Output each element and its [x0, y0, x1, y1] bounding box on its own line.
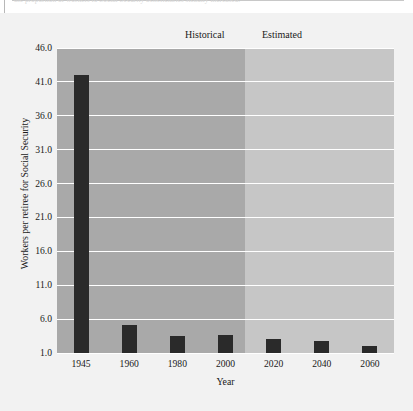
gridline: [57, 48, 394, 49]
gridline: [57, 217, 394, 218]
bar: [74, 75, 89, 353]
gridline: [57, 183, 394, 184]
gridline: [57, 81, 394, 82]
bar: [266, 339, 281, 353]
estimated-region-background: [245, 48, 394, 353]
y-axis-tick-label: 6.0: [4, 314, 52, 324]
x-axis-tick-label: 1960: [107, 358, 151, 369]
x-axis-tick-label: 1945: [59, 358, 103, 369]
y-axis-tick-label: 1.0: [4, 348, 52, 358]
y-axis-tick-label: 46.0: [4, 43, 52, 53]
plot-area: [57, 48, 394, 353]
bar: [218, 335, 233, 353]
caption-strip: the proportion of workers to Social Secu…: [0, 0, 413, 13]
caption-left-rule: [4, 0, 5, 13]
region-label-historical: Historical: [185, 29, 224, 40]
gridline: [57, 149, 394, 150]
region-label-estimated: Estimated: [262, 29, 302, 40]
chart-canvas: 46.041.036.031.026.021.016.011.06.01.0 1…: [0, 13, 413, 411]
gridline: [57, 319, 394, 320]
bar: [314, 341, 329, 353]
gridline: [57, 285, 394, 286]
figure-container: the proportion of workers to Social Secu…: [0, 0, 413, 411]
bar: [170, 336, 185, 353]
x-axis-tick-label: 1980: [155, 358, 199, 369]
x-axis-tick-label: 2040: [300, 358, 344, 369]
gridline: [57, 115, 394, 116]
bar: [362, 346, 377, 353]
y-axis-label: Workers per retiree for Social Security: [19, 74, 30, 314]
x-axis-tick-label: 2060: [348, 358, 392, 369]
gridline: [57, 251, 394, 252]
x-axis-ticks: 1945196019802000202020402060: [57, 358, 394, 372]
x-axis-tick-label: 2000: [204, 358, 248, 369]
caption-text: the proportion of workers to Social Secu…: [14, 0, 404, 6]
x-axis-tick-label: 2020: [252, 358, 296, 369]
x-axis-label: Year: [57, 376, 394, 387]
bar: [122, 325, 137, 353]
